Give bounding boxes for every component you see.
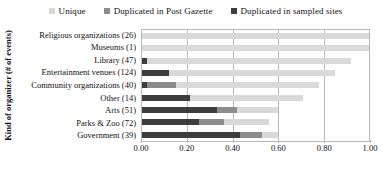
y-axis-labels: Religious organizations (26)Museums (1)L… bbox=[18, 29, 139, 142]
legend-swatch-duplicated-post-gazette bbox=[104, 8, 110, 14]
bar-segment bbox=[217, 107, 237, 113]
bar-stack bbox=[142, 33, 369, 39]
x-axis-tick-label: 0.80 bbox=[317, 143, 332, 153]
bar-stack bbox=[142, 132, 278, 138]
y-axis-title: Kind of organizer (# of events) bbox=[4, 30, 13, 141]
y-axis-label: Arts (51) bbox=[18, 104, 139, 117]
bar-stack bbox=[142, 95, 303, 101]
y-axis-label: Museums (1) bbox=[18, 42, 139, 55]
bar-row bbox=[142, 55, 369, 67]
bar-segment bbox=[142, 132, 240, 138]
bar-segment bbox=[199, 119, 224, 125]
bar-segment bbox=[262, 132, 278, 138]
x-axis-tick-mark bbox=[370, 140, 371, 143]
chart-legend: Unique Duplicated in Post Gazette Duplic… bbox=[0, 3, 391, 19]
bar-segment bbox=[142, 107, 217, 113]
bar-row bbox=[142, 42, 369, 54]
bar-segment bbox=[147, 58, 351, 64]
x-axis-tick-mark bbox=[233, 140, 234, 143]
y-axis-label: Government (39) bbox=[18, 130, 139, 143]
x-axis-tick-mark bbox=[141, 140, 142, 143]
x-axis-tick-label: 1.00 bbox=[363, 143, 378, 153]
bar-row bbox=[142, 30, 369, 42]
legend-label-unique: Unique bbox=[59, 6, 86, 16]
bar-segment bbox=[142, 95, 190, 101]
y-axis-label: Parks & Zoo (72) bbox=[18, 117, 139, 130]
bar-rows bbox=[142, 30, 369, 141]
bar-segment bbox=[224, 119, 269, 125]
x-axis-tick-label: 0.60 bbox=[271, 143, 286, 153]
bar-segment bbox=[142, 33, 369, 39]
legend-label-duplicated-sampled-sites: Duplicated in sampled sites bbox=[241, 6, 343, 16]
bar-row bbox=[142, 67, 369, 79]
bar-stack bbox=[142, 58, 351, 64]
legend-label-duplicated-post-gazette: Duplicated in Post Gazette bbox=[114, 6, 213, 16]
y-axis-label: Religious organizations (26) bbox=[18, 29, 139, 42]
bar-segment bbox=[240, 132, 263, 138]
bar-stack bbox=[142, 107, 278, 113]
bar-row bbox=[142, 129, 369, 141]
bar-segment bbox=[142, 45, 369, 51]
bar-row bbox=[142, 92, 369, 104]
legend-item-duplicated-sampled-sites: Duplicated in sampled sites bbox=[231, 6, 343, 16]
legend-swatch-unique bbox=[49, 8, 55, 14]
x-axis-tick-mark bbox=[187, 140, 188, 143]
x-axis-tick-label: 0.20 bbox=[179, 143, 194, 153]
x-axis-tick-label: 0.00 bbox=[134, 143, 149, 153]
bar-segment bbox=[142, 119, 199, 125]
plot-area bbox=[141, 29, 370, 142]
y-axis-label: Library (47) bbox=[18, 54, 139, 67]
bar-stack bbox=[142, 70, 335, 76]
bar-stack bbox=[142, 119, 269, 125]
bar-stack bbox=[142, 45, 369, 51]
bar-segment bbox=[142, 70, 169, 76]
bar-segment bbox=[190, 95, 303, 101]
y-axis-title-container: Kind of organizer (# of events) bbox=[0, 29, 16, 142]
bar-row bbox=[142, 104, 369, 116]
stacked-bar-chart: Unique Duplicated in Post Gazette Duplic… bbox=[0, 0, 391, 172]
bar-segment bbox=[237, 107, 278, 113]
y-axis-label: Entertainment venues (124) bbox=[18, 67, 139, 80]
bar-segment bbox=[176, 82, 319, 88]
legend-item-unique: Unique bbox=[49, 6, 86, 16]
x-axis-tick-mark bbox=[324, 140, 325, 143]
legend-swatch-duplicated-sampled-sites bbox=[231, 8, 237, 14]
x-axis-ticks: 0.000.200.400.600.801.00 bbox=[141, 143, 370, 157]
x-axis-tick-label: 0.40 bbox=[225, 143, 240, 153]
bar-segment bbox=[169, 70, 335, 76]
bar-stack bbox=[142, 82, 319, 88]
legend-item-duplicated-post-gazette: Duplicated in Post Gazette bbox=[104, 6, 213, 16]
y-axis-label: Other (14) bbox=[18, 92, 139, 105]
bar-row bbox=[142, 79, 369, 91]
y-axis-label: Community organizations (40) bbox=[18, 79, 139, 92]
bar-row bbox=[142, 116, 369, 128]
x-axis-tick-mark bbox=[278, 140, 279, 143]
bar-segment bbox=[147, 82, 177, 88]
